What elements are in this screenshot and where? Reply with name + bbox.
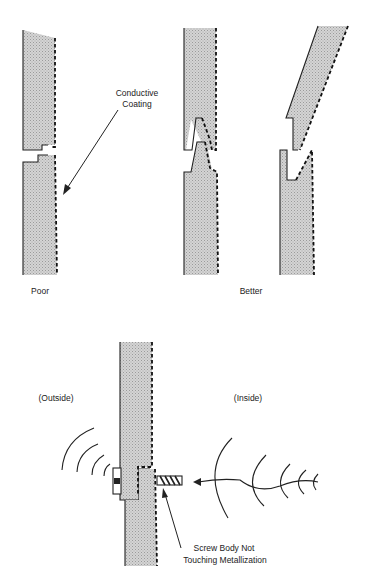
inside-label: (Inside) [234,393,263,403]
screw-note-line1: Screw Body Not [194,543,256,553]
better-label: Better [240,286,263,296]
inside-interference-waves [193,438,318,518]
screw-head [113,468,121,494]
better-seam-tongue-groove [184,28,218,275]
coating-label-line1: Conductive [116,88,159,98]
poor-seam-panel [23,30,57,275]
coating-label-line2: Coating [122,99,152,109]
screw-note-line2: Touching Metallization [183,555,267,565]
better-seam-angled [280,26,348,275]
shielding-seam-diagram: Conductive Coating Poor Better [0,0,367,566]
coating-pointer-arrow [63,110,118,195]
screw-joint-panel [120,342,157,566]
poor-label: Poor [31,286,49,296]
outside-label: (Outside) [39,393,74,403]
screw-body [157,476,182,485]
screw-note-arrow [162,488,181,548]
outside-emission-waves [62,428,110,476]
